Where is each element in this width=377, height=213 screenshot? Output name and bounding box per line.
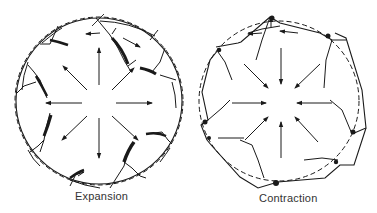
arrow-top-tangent-right-icon [280,31,298,33]
contraction-panel [199,16,366,189]
arrow-in-bottom-left-icon [245,117,268,140]
arrow-top-left-icon [86,33,100,34]
contraction-original-boundary [199,21,359,181]
caption-expansion: Expansion [75,190,128,202]
expansion-outer-boundary [16,18,182,184]
arrow-up-right-icon [112,68,134,90]
arrow-up-left-icon [63,66,87,90]
arrow-in-top-left-icon [244,64,268,88]
expansion-contraction-diagram [0,0,377,213]
arrow-down-right-icon [112,116,138,140]
arrow-down-left-icon [62,116,87,140]
caption-contraction: Contraction [259,192,317,204]
arrow-top-tangent-left-icon [248,33,262,34]
arrow-in-top-right-icon [295,64,320,88]
arrow-in-bottom-right-icon [295,117,318,142]
arrow-top-right-icon [123,38,140,47]
expansion-panel [15,14,183,188]
expansion-arrows [46,33,152,158]
contraction-arrows [232,17,332,158]
